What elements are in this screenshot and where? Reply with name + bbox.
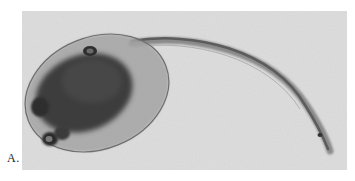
panel-label: A. bbox=[7, 151, 20, 166]
larva-illustration bbox=[22, 11, 347, 170]
micrograph-photo bbox=[22, 11, 347, 170]
